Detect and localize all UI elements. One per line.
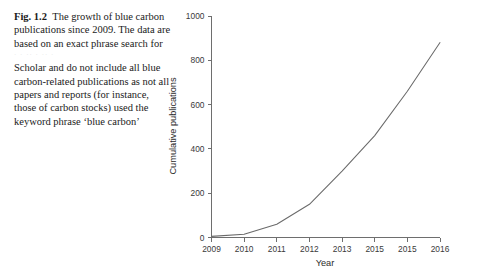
y-tick-label: 200 bbox=[191, 188, 205, 198]
x-tick-label: 2013 bbox=[333, 244, 352, 254]
data-series-line bbox=[212, 43, 441, 237]
x-tick-label: 2015 bbox=[365, 244, 384, 254]
x-axis-title: Year bbox=[316, 258, 335, 268]
y-tick-label: 600 bbox=[191, 100, 205, 110]
chart-svg: 02004006008001000 2009201020112012201320… bbox=[165, 4, 470, 276]
x-tick-label: 2009 bbox=[202, 244, 221, 254]
y-tick-label: 0 bbox=[200, 233, 205, 243]
y-tick-label: 800 bbox=[191, 55, 205, 65]
x-tick-label: 2015 bbox=[398, 244, 417, 254]
x-tick-label: 2016 bbox=[431, 244, 450, 254]
y-axis-title: Cumulative publications bbox=[168, 77, 178, 174]
figure-number: Fig. 1.2 bbox=[14, 11, 52, 22]
caption-paragraph-1: Fig. 1.2The growth of blue carbon public… bbox=[14, 10, 172, 50]
line-chart: 02004006008001000 2009201020112012201320… bbox=[165, 4, 470, 276]
x-axis-ticks: 20092010201120122013201520152016 bbox=[202, 238, 449, 254]
y-tick-label: 400 bbox=[191, 144, 205, 154]
y-axis-ticks: 02004006008001000 bbox=[186, 11, 212, 243]
caption-smudge-line: · · ·· · ·· · bbox=[14, 50, 172, 61]
x-tick-label: 2010 bbox=[235, 244, 254, 254]
x-tick-label: 2012 bbox=[300, 244, 319, 254]
x-tick-label: 2011 bbox=[268, 244, 286, 254]
figure-caption: Fig. 1.2The growth of blue carbon public… bbox=[14, 10, 172, 128]
caption-paragraph-2: Scholar and do not include all blue carb… bbox=[14, 61, 172, 128]
y-tick-label: 1000 bbox=[186, 11, 205, 21]
